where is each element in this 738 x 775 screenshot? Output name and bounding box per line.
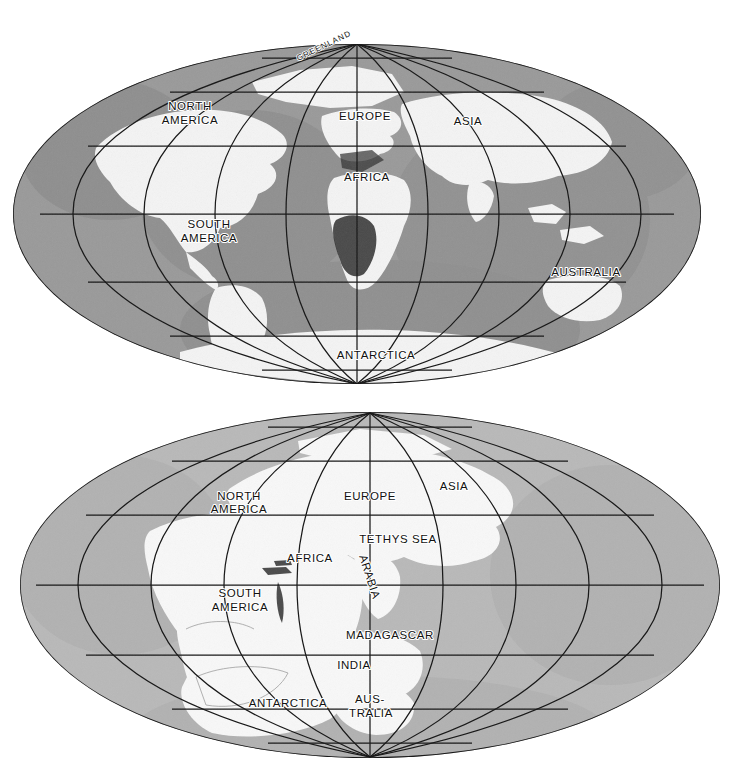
map-label-north: NORTH (168, 100, 212, 112)
map-svg-present-day: GREENLANDNORTHAMERICAEUROPEASIAAFRICASOU… (0, 30, 738, 390)
map-label-australia: AUSTRALIA (551, 266, 620, 278)
map-label-europe: EUROPE (344, 490, 396, 502)
map-label-asia: ASIA (454, 115, 483, 127)
map-label-europe: EUROPE (339, 110, 391, 122)
map-label-africa: AFRICA (344, 171, 390, 183)
world-map-gondwanaland: G O N D W A N A L A N D EAST SIBERIABORE… (0, 405, 738, 767)
map-label-south: SOUTH (218, 587, 261, 599)
map-label-india: INDIA (337, 659, 371, 671)
map-label-south: SOUTH (187, 218, 230, 230)
map-label-antarctica: ANTARCTICA (337, 349, 416, 361)
map-label-america: AMERICA (211, 503, 268, 515)
map-label-tethys-sea: TETHYS SEA (359, 533, 437, 545)
map-body-present-day (0, 30, 738, 390)
map-label-africa: AFRICA (287, 552, 333, 564)
map-label-america: AMERICA (212, 601, 269, 613)
map-label-america: AMERICA (162, 114, 219, 126)
map-label-madagascar: MADAGASCAR (346, 629, 434, 641)
map-label-america: AMERICA (181, 232, 238, 244)
map-label-antarctica: ANTARCTICA (249, 697, 328, 709)
paper-texture (0, 30, 738, 390)
map-label-asia: ASIA (440, 480, 469, 492)
map-label-aus: AUS- (355, 693, 385, 705)
map-label-tralia: TRALIA (349, 707, 393, 719)
map-svg-gondwanaland: G O N D W A N A L A N D EAST SIBERIABORE… (0, 405, 738, 767)
map-label-north: NORTH (217, 490, 261, 502)
world-map-present-day: GREENLANDNORTHAMERICAEUROPEASIAAFRICASOU… (0, 30, 738, 390)
